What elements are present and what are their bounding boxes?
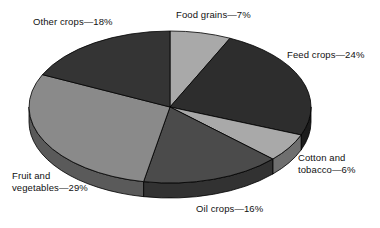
- slice-label-cotton-line2: tobacco—6%: [298, 164, 356, 175]
- slice-label-fruit-line1: Fruit and: [12, 170, 50, 181]
- slice-label-cotton-line1: Cotton and: [298, 152, 345, 163]
- slice-label-fruit-line2: vegetables—29%: [12, 182, 88, 193]
- slice-label-fruit-and-vegetables: Fruit andvegetables—29%: [12, 170, 88, 194]
- pie-top-faces: [29, 31, 311, 183]
- slice-label-cotton-and-tobacco: Cotton andtobacco—6%: [298, 152, 356, 176]
- slice-label-oil-crops: Oil crops—16%: [196, 203, 263, 215]
- slice-label-other-crops: Other crops—18%: [33, 16, 113, 28]
- pie-chart-figure: Other crops—18% Food grains—7% Feed crop…: [0, 0, 380, 228]
- slice-label-food-grains: Food grains—7%: [176, 9, 251, 21]
- slice-label-feed-crops: Feed crops—24%: [287, 49, 364, 61]
